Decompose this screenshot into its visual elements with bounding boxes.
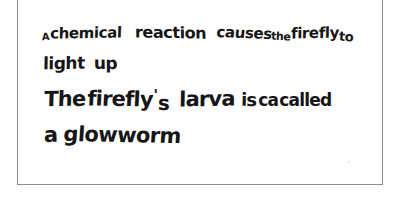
handwriting-word: firefly — [291, 26, 339, 42]
handwriting-word: is — [241, 91, 257, 109]
handwriting-line-4: aglowworm — [44, 125, 180, 146]
handwriting-word: up — [93, 55, 117, 72]
handwriting-word: A — [42, 32, 50, 42]
handwriting-word: the — [271, 31, 291, 43]
handwriting-word: a — [44, 125, 58, 146]
handwriting-word: firefly — [87, 88, 153, 110]
handwriting-word: called — [279, 92, 331, 109]
handwriting-word: light — [43, 55, 85, 73]
handwriting-line-3: Thefirefly'slarvaiscacalled — [44, 89, 331, 110]
handwriting-word: glowworm — [62, 124, 181, 147]
handwriting-word: The — [44, 89, 86, 111]
handwriting-word: chemical — [50, 25, 122, 41]
handwriting-word-falsestart: ca — [258, 92, 278, 109]
scanned-page: Achemicalreactioncausesthefireflyto ligh… — [0, 0, 404, 198]
scan-speck — [348, 161, 350, 163]
handwritten-answer-text: Achemicalreactioncausesthefireflyto ligh… — [42, 21, 398, 171]
handwriting-line-1: Achemicalreactioncausesthefireflyto — [42, 25, 353, 41]
handwriting-word: causes — [216, 25, 273, 42]
handwriting-word: s — [158, 93, 170, 113]
handwriting-word: reaction — [135, 24, 207, 41]
answer-box-border: Achemicalreactioncausesthefireflyto ligh… — [17, 0, 383, 185]
handwriting-line-2: lightup — [43, 55, 117, 72]
handwriting-word: to — [338, 30, 353, 44]
handwriting-word: larva — [179, 89, 235, 111]
scan-speck — [114, 13, 115, 14]
